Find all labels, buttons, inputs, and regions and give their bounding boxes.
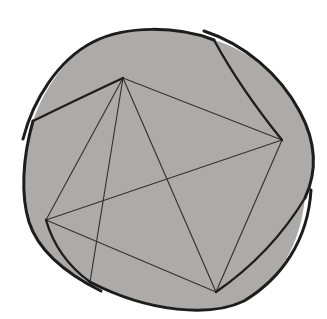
scanned-figure-page [0,0,327,319]
folded-circle-figure [0,0,327,319]
